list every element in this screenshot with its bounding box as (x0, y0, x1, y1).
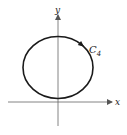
curve-label-subscript: 4 (96, 50, 101, 58)
x-axis-label: x (115, 97, 120, 107)
curve-diagram: y x C4 (0, 0, 127, 135)
y-axis-label: y (54, 5, 61, 15)
